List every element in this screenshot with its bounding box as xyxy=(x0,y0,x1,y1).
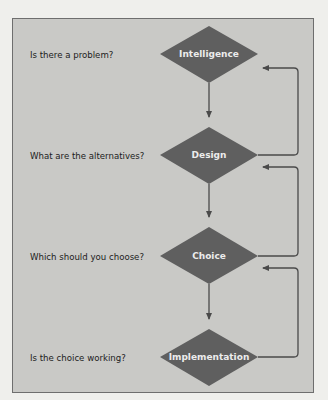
choice-label: Choice xyxy=(160,251,258,261)
feedback-design-to-intelligence xyxy=(258,68,298,155)
feedback-choice-to-design xyxy=(258,167,298,256)
question-implementation: Is the choice working? xyxy=(30,353,126,363)
design-label: Design xyxy=(160,150,258,160)
intelligence-label: Intelligence xyxy=(160,49,258,59)
question-design: What are the alternatives? xyxy=(30,151,144,161)
question-intelligence: Is there a problem? xyxy=(30,50,113,60)
question-choice: Which should you choose? xyxy=(30,252,144,262)
flowchart-graphic xyxy=(0,0,328,400)
feedback-implementation-to-choice xyxy=(258,268,298,357)
implementation-label: Implementation xyxy=(160,352,258,362)
